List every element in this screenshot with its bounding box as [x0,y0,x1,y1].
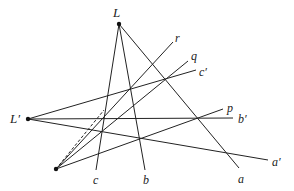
label-line-b: b [143,173,149,187]
point-o [54,167,58,171]
line-q [56,61,188,169]
label-line-b-prime: b′ [238,112,247,126]
label-line-c-prime: c′ [199,65,207,79]
label-line-a: a [238,172,244,186]
label-line-p: p [226,101,233,115]
point-lp [26,117,30,121]
line-a-prime [28,119,268,160]
label-line-c: c [93,173,99,187]
label-line-q: q [191,49,197,63]
line-c-prime [28,70,196,119]
line-a [119,24,239,168]
label-point-l: L [112,5,120,20]
lines-layer [28,24,268,170]
label-line-a-prime: a′ [272,155,281,169]
label-line-r: r [175,31,180,45]
label-point-lp: L′ [9,111,20,126]
point-l [117,22,121,26]
geometry-diagram: abca′b′c′pqrLL′ [0,0,294,191]
line-b-prime [28,118,233,119]
